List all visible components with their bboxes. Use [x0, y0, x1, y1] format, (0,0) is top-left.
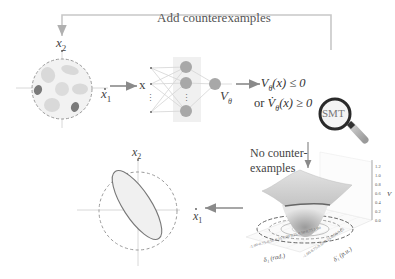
region-of-attraction-plot: [77, 159, 197, 266]
svg-text:δ̇₁ (p.u.): δ̇₁ (p.u.): [332, 245, 354, 264]
smt-label: SMT: [322, 107, 345, 119]
sample-axis-y-label: x2: [56, 35, 66, 53]
hidden-neuron: [180, 61, 192, 73]
no-counterexamples-label: No counter- examples: [250, 146, 307, 176]
feedback-label: Add counterexamples: [157, 10, 271, 26]
lyapunov-condition: Vθ(x) ≤ 0 or V̇θ(x) ≥ 0: [254, 76, 312, 115]
svg-text:δ₁ (rad.): δ₁ (rad.): [263, 252, 286, 264]
network-output-label: Vθ: [220, 88, 232, 106]
roa-axis-y-label: x2: [132, 145, 141, 161]
svg-text:V: V: [387, 190, 392, 198]
sample-region: [72, 84, 88, 95]
svg-text:0.4: 0.4: [375, 200, 381, 205]
sample-axis-x-label: x1: [101, 86, 111, 104]
svg-text:0.8: 0.8: [375, 182, 381, 187]
roa-ellipse: [103, 164, 170, 246]
result-line-2: examples: [250, 161, 307, 176]
svg-text:0.2: 0.2: [375, 209, 381, 214]
svg-text:1.0: 1.0: [375, 173, 381, 178]
sample-region: [44, 98, 60, 112]
smt-magnifier-icon: [320, 99, 365, 140]
sample-region: [55, 82, 69, 96]
svg-text:⋮: ⋮: [182, 93, 191, 103]
hidden-neuron: [180, 77, 192, 89]
result-line-1: No counter-: [250, 146, 307, 161]
condition-line-2: or V̇θ(x) ≥ 0: [254, 96, 312, 116]
network-input-label: x: [139, 77, 146, 93]
hidden-neuron: [180, 105, 192, 117]
svg-text:⋮: ⋮: [146, 93, 155, 103]
svg-text:0.6: 0.6: [375, 191, 381, 196]
svg-text:1.2: 1.2: [375, 164, 381, 169]
svg-text:0.0: 0.0: [375, 218, 381, 223]
condition-line-1: Vθ(x) ≤ 0: [254, 76, 312, 96]
roa-axis-x-label: x1: [193, 209, 202, 225]
sample-space-plot: [16, 50, 108, 128]
